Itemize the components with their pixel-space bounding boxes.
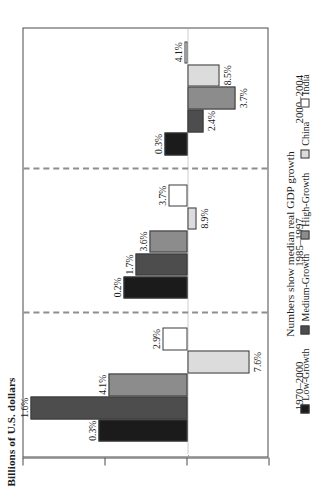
bar-high-growth-1985–1997[interactable]	[149, 230, 187, 252]
legend-label: India	[299, 74, 310, 95]
bar-value-label: 2.4%	[205, 111, 216, 131]
legend-swatch-icon	[300, 98, 309, 107]
bar-value-label: 8.5%	[221, 65, 232, 85]
plot-frame: 0.3%1.6%4.1%7.6%2.9%0.2%1.7%3.6%8.9%3.7%…	[22, 27, 268, 457]
legend-item-india[interactable]: India	[299, 74, 310, 108]
legend-item-high-growth[interactable]: High-Growth	[299, 172, 310, 239]
bar-china-1985–1997[interactable]	[187, 207, 196, 229]
legend-item-china[interactable]: China	[299, 121, 310, 158]
bar-medium-growth-2000–2004[interactable]	[187, 109, 203, 131]
axis-title: Billions of U.S. dollars	[4, 377, 16, 486]
bar-high-growth-2000–2004[interactable]	[187, 86, 235, 108]
bar-value-label: 0.3%	[152, 134, 163, 154]
chart-stage: Billions of U.S. dollars 10005000-500 0.…	[0, 0, 313, 487]
bar-china-2000–2004[interactable]	[187, 64, 219, 86]
axis-tick	[104, 457, 105, 465]
legend-label: Low-Growth	[299, 348, 310, 400]
bar-low-growth-1985–1997[interactable]	[123, 276, 187, 298]
bar-value-label: 0.3%	[86, 420, 97, 440]
bar-medium-growth-1985–1997[interactable]	[135, 253, 187, 275]
legend-swatch-icon	[300, 230, 309, 239]
bar-value-label: 1.6%	[18, 397, 29, 417]
legend-swatch-icon	[300, 149, 309, 158]
bar-value-label: 8.9%	[198, 208, 209, 228]
bar-china-1970–2000[interactable]	[187, 350, 249, 372]
bar-value-label: 7.6%	[251, 351, 262, 371]
bar-value-label: 3.7%	[156, 185, 167, 205]
legend-swatch-icon	[300, 404, 309, 413]
bar-value-label: 4.1%	[172, 42, 183, 62]
chart-legend: Low-GrowthMedium-GrowthHigh-GrowthChinaI…	[299, 0, 310, 487]
bar-high-growth-1970–2000[interactable]	[108, 373, 187, 395]
bar-value-label: 0.2%	[111, 277, 122, 297]
bar-india-2000–2004[interactable]	[184, 41, 187, 63]
axis-tick	[186, 457, 187, 465]
group-separator	[23, 311, 267, 313]
bar-value-label: 3.7%	[237, 88, 248, 108]
axis-tick	[268, 457, 269, 465]
bar-value-label: 1.7%	[123, 254, 134, 274]
axis-tick	[22, 457, 23, 465]
bar-medium-growth-1970–2000[interactable]	[30, 396, 187, 418]
bar-india-1970–2000[interactable]	[162, 327, 187, 349]
legend-swatch-icon	[300, 325, 309, 334]
legend-label: China	[299, 121, 310, 145]
bar-india-1985–1997[interactable]	[168, 184, 187, 206]
chart-caption: Numbers show median real GDP growth	[283, 0, 295, 487]
bar-value-label: 2.9%	[150, 328, 161, 348]
group-separator	[23, 167, 267, 169]
bar-low-growth-1970–2000[interactable]	[98, 419, 187, 441]
bar-value-label: 4.1%	[96, 374, 107, 394]
legend-label: High-Growth	[299, 172, 310, 226]
legend-label: Medium-Growth	[299, 253, 310, 321]
legend-item-medium-growth[interactable]: Medium-Growth	[299, 253, 310, 334]
bar-value-label: 3.6%	[137, 231, 148, 251]
bar-low-growth-2000–2004[interactable]	[164, 132, 187, 154]
legend-item-low-growth[interactable]: Low-Growth	[299, 348, 310, 413]
